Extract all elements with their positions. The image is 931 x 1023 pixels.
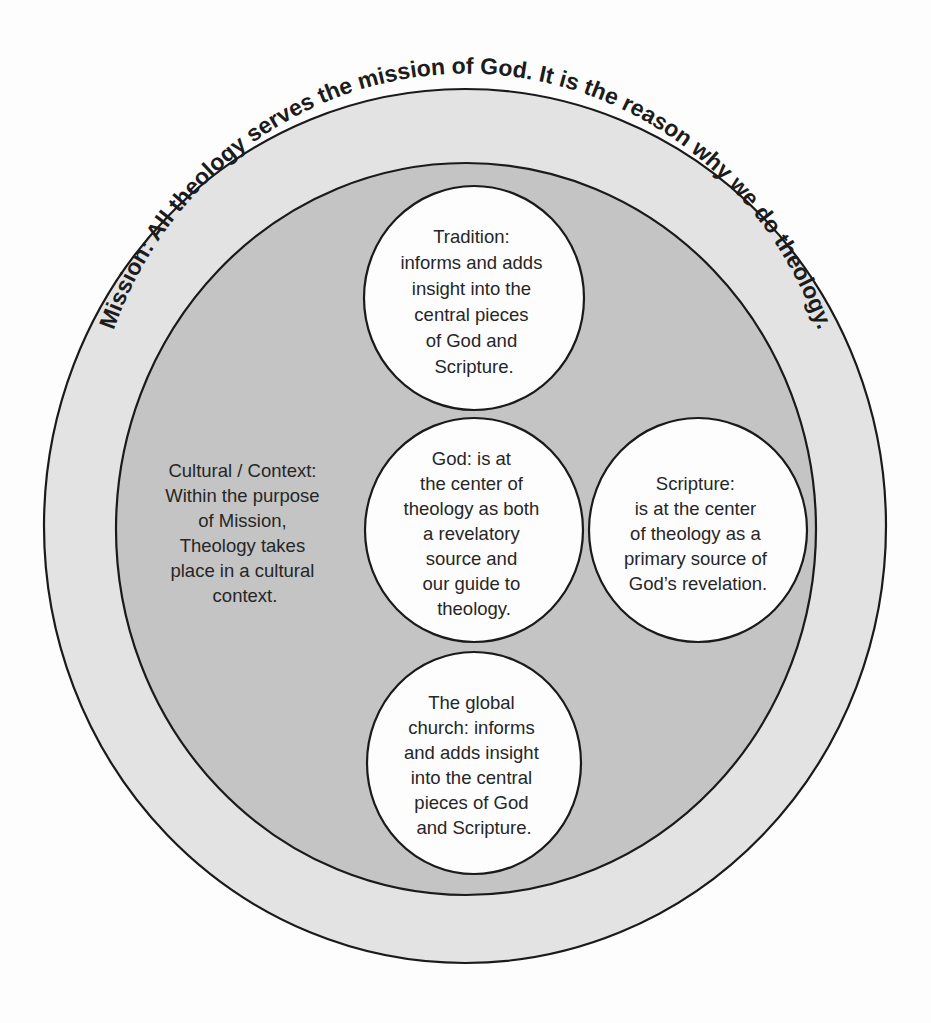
node-line: source and bbox=[426, 548, 518, 569]
node-line: Scripture: bbox=[656, 473, 735, 494]
context-line: place in a cultural bbox=[170, 560, 314, 581]
context-line: Within the purpose bbox=[165, 485, 319, 506]
scripture-node: Scripture: is at the center of theology … bbox=[589, 418, 807, 642]
god-label: God: is at the center of theology as bot… bbox=[404, 448, 545, 619]
node-line: is at the center bbox=[635, 498, 756, 519]
node-line: of theology as a bbox=[630, 523, 761, 544]
context-line: context. bbox=[213, 585, 278, 606]
node-line: Scripture. bbox=[434, 356, 513, 377]
node-line: primary source of bbox=[624, 548, 768, 569]
node-line: insight into the bbox=[412, 278, 531, 299]
node-line: into the central bbox=[411, 767, 532, 788]
context-line: Theology takes bbox=[180, 535, 305, 556]
node-line: informs and adds bbox=[400, 252, 542, 273]
node-line: of God and bbox=[426, 330, 518, 351]
node-line: a revelatory bbox=[423, 523, 520, 544]
node-line: God’s revelation. bbox=[629, 573, 768, 594]
node-line: church: informs bbox=[408, 717, 534, 738]
node-line: theology as both bbox=[404, 498, 540, 519]
node-line: Tradition: bbox=[433, 226, 509, 247]
node-line: our guide to bbox=[423, 573, 521, 594]
node-line: The global bbox=[428, 692, 514, 713]
node-line: pieces of God bbox=[414, 792, 528, 813]
node-line: and Scripture. bbox=[416, 817, 531, 838]
global-church-node: The global church: informs and adds insi… bbox=[367, 652, 581, 874]
tradition-node: Tradition: informs and adds insight into… bbox=[364, 186, 584, 410]
node-line: the center of bbox=[420, 473, 524, 494]
context-line: Cultural / Context: bbox=[168, 460, 316, 481]
mission-theology-diagram: Mission: All theology serves the mission… bbox=[0, 0, 931, 1023]
context-line: of Mission, bbox=[198, 510, 286, 531]
node-line: central pieces bbox=[414, 304, 528, 325]
node-line: and adds insight bbox=[404, 742, 539, 763]
node-line: God: is at bbox=[432, 448, 511, 469]
node-line: theology. bbox=[437, 598, 511, 619]
god-node: God: is at the center of theology as bot… bbox=[365, 418, 583, 642]
global-church-circle bbox=[367, 652, 581, 874]
